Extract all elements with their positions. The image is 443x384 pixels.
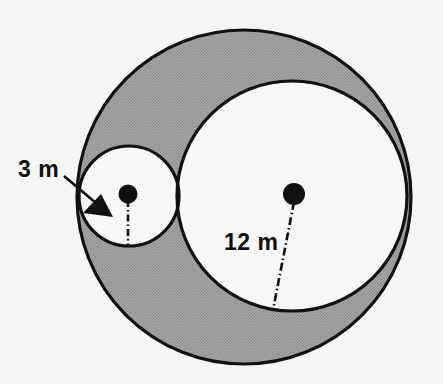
circles-figure-svg: 3 m 12 m: [0, 0, 443, 384]
small-circle-center-dot: [119, 185, 138, 204]
large-circle-center-dot: [283, 183, 305, 205]
shaded-region: [0, 0, 443, 384]
large-radius-label: 12 m: [224, 229, 278, 255]
geometry-diagram: 3 m 12 m: [0, 0, 443, 384]
small-radius-label: 3 m: [18, 156, 59, 182]
